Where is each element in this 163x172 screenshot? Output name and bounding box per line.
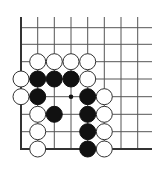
black-stone bbox=[30, 71, 46, 87]
point-marker-dot bbox=[69, 94, 74, 99]
white-stone bbox=[30, 106, 46, 122]
white-stone bbox=[30, 54, 46, 70]
black-stone bbox=[63, 71, 79, 87]
white-stone bbox=[96, 124, 112, 140]
black-stone bbox=[46, 71, 62, 87]
white-stone bbox=[96, 106, 112, 122]
white-stone bbox=[30, 124, 46, 140]
white-stone bbox=[80, 71, 96, 87]
white-stone bbox=[96, 89, 112, 105]
white-stone bbox=[13, 89, 29, 105]
black-stone bbox=[80, 106, 96, 122]
white-stone bbox=[46, 54, 62, 70]
black-stone bbox=[80, 141, 96, 157]
black-stone bbox=[80, 124, 96, 140]
white-stone bbox=[80, 54, 96, 70]
go-board-diagram bbox=[0, 0, 163, 172]
white-stone bbox=[30, 141, 46, 157]
white-stone bbox=[13, 71, 29, 87]
white-stone bbox=[96, 141, 112, 157]
black-stone bbox=[46, 106, 62, 122]
markers-layer bbox=[69, 94, 74, 99]
white-stone bbox=[63, 54, 79, 70]
black-stone bbox=[30, 89, 46, 105]
black-stone bbox=[80, 89, 96, 105]
